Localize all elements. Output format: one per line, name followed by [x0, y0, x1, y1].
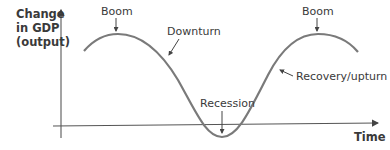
arrow-recovery	[280, 70, 293, 76]
label-boom-right: Boom	[302, 5, 334, 18]
label-boom-left: Boom	[101, 5, 133, 18]
label-recovery: Recovery/upturn	[296, 70, 387, 83]
label-recession: Recession	[200, 97, 255, 110]
x-axis	[53, 123, 378, 126]
business-cycle-diagram: Change in GDP (output) Time Boom Downtur…	[0, 0, 390, 150]
x-axis-label: Time	[354, 130, 386, 144]
y-axis-label-line1: Change	[16, 7, 65, 21]
business-cycle-curve	[84, 34, 358, 137]
label-downturn: Downturn	[167, 25, 221, 38]
arrow-downturn	[169, 39, 179, 55]
y-axis-label-line3: (output)	[16, 35, 70, 49]
y-axis-label-line2: in GDP	[16, 21, 60, 35]
